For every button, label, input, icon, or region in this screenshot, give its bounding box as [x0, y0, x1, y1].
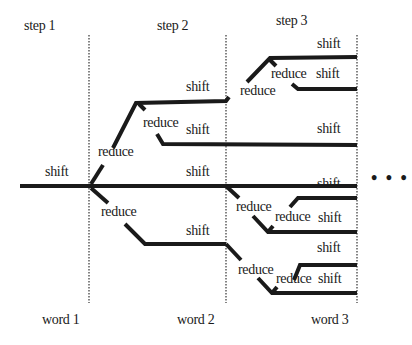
edge-label-reduce: reduce [271, 67, 307, 81]
edge-label-shift: shift [317, 122, 340, 136]
edge-label-reduce: reduce [238, 263, 274, 277]
edge-label-reduce: reduce [236, 200, 272, 214]
edge-label-reduce: reduce [143, 116, 179, 130]
step-label-3: step 3 [276, 14, 307, 28]
edge-label-shift: shift [317, 241, 340, 255]
continuation-ellipsis: • • • [371, 168, 409, 189]
edge-label-reduce: reduce [276, 272, 312, 286]
edge-label-reduce: reduce [275, 210, 311, 224]
edge-label-shift: shift [186, 80, 209, 94]
step-label-2: step 2 [157, 19, 188, 33]
edge-label-reduce: reduce [101, 205, 137, 219]
edge-label-shift: shift [186, 224, 209, 238]
edge-label-shift: shift [318, 211, 341, 225]
word-label-1: word 1 [42, 313, 79, 327]
edge-label-shift: shift [186, 165, 209, 179]
word-label-2: word 2 [177, 313, 214, 327]
edge-label-reduce: reduce [98, 145, 134, 159]
edge-label-reduce: reduce [240, 84, 276, 98]
edge-label-shift: shift [318, 272, 341, 286]
edge-label-shift: shift [317, 177, 340, 191]
edge-label-shift: shift [186, 123, 209, 137]
step-label-1: step 1 [24, 19, 55, 33]
edge-label-shift: shift [317, 37, 340, 51]
edge-label-shift: shift [45, 165, 68, 179]
edge-label-shift: shift [316, 67, 339, 81]
word-label-3: word 3 [311, 313, 348, 327]
